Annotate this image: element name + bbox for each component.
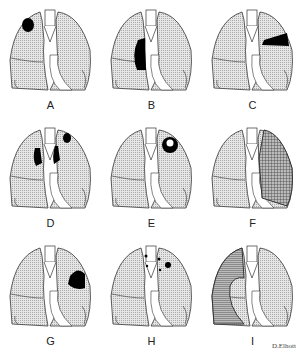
panel-d: D	[0, 118, 101, 236]
panel-label: H	[101, 335, 202, 347]
lungs-figure	[101, 236, 202, 336]
lungs-figure	[0, 118, 101, 218]
lungs-figure	[0, 0, 101, 100]
panel-i: I	[202, 236, 303, 354]
panel-c: C	[202, 0, 303, 118]
lungs-figure	[202, 0, 303, 100]
panel-label: D	[0, 217, 101, 229]
panel-f: F	[202, 118, 303, 236]
panel-label: C	[202, 99, 303, 111]
lungs-figure	[101, 118, 202, 218]
panel-label: A	[0, 99, 101, 111]
panel-g: G	[0, 236, 101, 354]
artist-signature: D.Elhott	[272, 342, 296, 350]
lungs-figure	[101, 0, 202, 100]
panel-h: H	[101, 236, 202, 354]
panel-e: E	[101, 118, 202, 236]
panel-label: E	[101, 217, 202, 229]
panel-label: F	[202, 217, 303, 229]
lungs-figure	[202, 236, 303, 336]
panel-a: A	[0, 0, 101, 118]
lungs-figure	[202, 118, 303, 218]
lungs-figure	[0, 236, 101, 336]
panel-label: B	[101, 99, 202, 111]
panel-label: G	[0, 335, 101, 347]
panel-b: B	[101, 0, 202, 118]
